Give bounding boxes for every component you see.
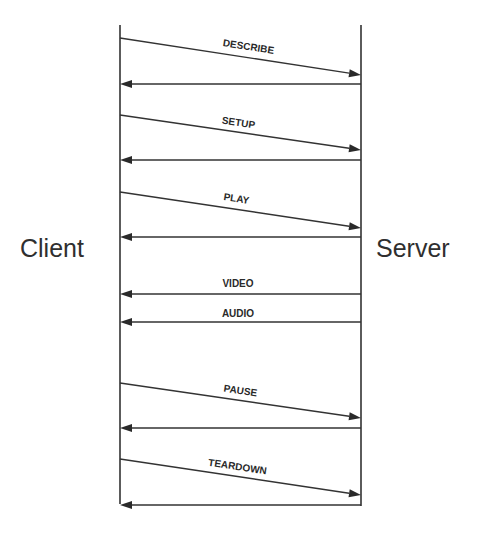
arrowhead-icon (120, 318, 132, 326)
sequence-diagram: DESCRIBESETUPPLAYVIDEOAUDIOPAUSETEARDOWN (0, 0, 485, 539)
lifelines (120, 25, 361, 506)
message-play: PLAY (120, 191, 361, 230)
message-response (120, 501, 361, 509)
messages: DESCRIBESETUPPLAYVIDEOAUDIOPAUSETEARDOWN (120, 37, 361, 509)
arrowhead-icon (349, 69, 361, 77)
message-audio: AUDIO (120, 308, 361, 326)
message-label: DESCRIBE (222, 37, 275, 56)
message-label: AUDIO (222, 308, 254, 319)
arrowhead-icon (120, 424, 132, 432)
message-response (120, 80, 361, 88)
message-label: PAUSE (223, 383, 258, 399)
arrowhead-icon (120, 290, 132, 298)
message-teardown: TEARDOWN (120, 457, 361, 497)
message-setup: SETUP (120, 115, 361, 153)
message-response (120, 156, 361, 164)
arrowhead-icon (349, 144, 361, 152)
message-label: PLAY (223, 191, 250, 206)
arrowhead-icon (120, 156, 132, 164)
message-video: VIDEO (120, 278, 361, 298)
message-describe: DESCRIBE (120, 37, 361, 77)
arrowhead-icon (120, 80, 132, 88)
message-label: VIDEO (222, 278, 253, 289)
participant-client-label: Client (20, 236, 84, 261)
arrowhead-icon (349, 222, 361, 230)
message-response (120, 424, 361, 432)
participant-server-label: Server (376, 236, 450, 261)
arrowhead-icon (120, 501, 132, 509)
arrowhead-icon (349, 412, 361, 420)
arrowhead-icon (120, 233, 132, 241)
message-response (120, 233, 361, 241)
message-label: SETUP (221, 115, 256, 131)
message-pause: PAUSE (120, 383, 361, 421)
arrowhead-icon (349, 489, 361, 497)
